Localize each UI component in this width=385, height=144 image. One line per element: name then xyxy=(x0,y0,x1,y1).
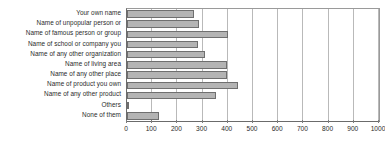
category-label: Name of school or company you xyxy=(28,39,121,49)
x-tickmark xyxy=(328,120,329,123)
x-tick-label: 800 xyxy=(322,124,333,134)
bar[interactable] xyxy=(127,71,227,78)
category-label: Name of unpopular person or xyxy=(37,18,121,28)
category-label: Name of any other product xyxy=(44,89,121,99)
x-tickmark xyxy=(151,120,152,123)
bar[interactable] xyxy=(127,20,199,27)
bar[interactable] xyxy=(127,51,205,58)
category-axis-labels: Your own nameName of unpopular person or… xyxy=(0,8,124,120)
bar[interactable] xyxy=(127,112,159,119)
x-tickmark xyxy=(202,120,203,123)
x-tick-label: 700 xyxy=(297,124,308,134)
bar[interactable] xyxy=(127,92,216,99)
bar[interactable] xyxy=(127,31,228,38)
bar-row xyxy=(127,40,379,50)
x-tick-label: 300 xyxy=(196,124,207,134)
x-tickmark xyxy=(126,120,127,123)
bar-row xyxy=(127,70,379,80)
bar-row xyxy=(127,19,379,29)
x-tick-label: 100 xyxy=(146,124,157,134)
category-label: Others xyxy=(102,100,121,110)
bar[interactable] xyxy=(127,10,194,17)
x-tickmark xyxy=(176,120,177,123)
x-tickmark xyxy=(378,120,379,123)
category-label: Name of any other organization xyxy=(30,49,121,59)
x-tickmark xyxy=(277,120,278,123)
bar[interactable] xyxy=(127,82,238,89)
category-label: Name of famous person or group xyxy=(26,28,121,38)
bar[interactable] xyxy=(127,102,129,109)
bar-row xyxy=(127,80,379,90)
x-tick-label: 200 xyxy=(171,124,182,134)
x-tick-label: 400 xyxy=(221,124,232,134)
x-axis-tick-labels: 01002003004005006007008009001000 xyxy=(0,124,385,138)
category-label: None of them xyxy=(82,110,121,120)
x-tickmark xyxy=(252,120,253,123)
x-tickmark xyxy=(353,120,354,123)
bar[interactable] xyxy=(127,41,198,48)
bar-chart: Your own nameName of unpopular person or… xyxy=(0,0,385,144)
category-label: Name of any other place xyxy=(50,69,121,79)
x-tick-label: 500 xyxy=(246,124,257,134)
bar[interactable] xyxy=(127,61,227,68)
bar-row xyxy=(127,50,379,60)
x-tickmark xyxy=(227,120,228,123)
category-label: Name of product you own xyxy=(47,79,121,89)
x-tick-label: 1000 xyxy=(371,124,385,134)
x-tick-label: 0 xyxy=(124,124,128,134)
x-tickmark xyxy=(302,120,303,123)
category-label: Your own name xyxy=(76,8,121,18)
category-label: Name of living area xyxy=(65,59,121,69)
bar-row xyxy=(127,90,379,100)
x-tick-label: 600 xyxy=(272,124,283,134)
bar-row xyxy=(127,9,379,19)
plot-area xyxy=(126,8,380,122)
bar-row xyxy=(127,60,379,70)
bar-row xyxy=(127,101,379,111)
x-tick-label: 900 xyxy=(347,124,358,134)
bar-row xyxy=(127,29,379,39)
